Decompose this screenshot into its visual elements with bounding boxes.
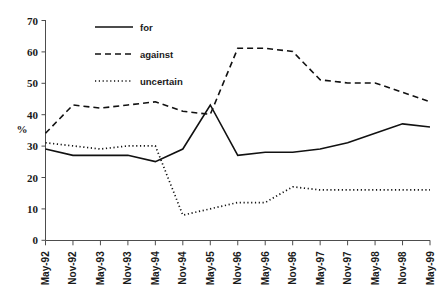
y-tick-label-20: 20: [27, 172, 39, 184]
x-tick-label: May-96: [260, 251, 271, 285]
y-tick-label-0: 0: [33, 234, 39, 246]
y-tick-label-70: 70: [27, 15, 39, 27]
y-axis-title: %: [17, 123, 28, 135]
x-tick-label: May-93: [95, 251, 106, 285]
chart-container: 70 60 50 40 30 20 10 0 % May-92Nov-92May…: [0, 0, 442, 307]
x-tick-label: May-95: [205, 251, 216, 285]
x-tick-label: Nov-97: [342, 251, 353, 285]
y-tick-label-40: 40: [27, 109, 39, 121]
x-tick-label: Nov-98: [397, 251, 408, 285]
x-tick-label: May-98: [370, 251, 381, 285]
x-tick-label: Nov-94: [177, 251, 188, 285]
x-axis-labels: May-92Nov-92May-93Nov-93May-94Nov-94May-…: [40, 251, 436, 285]
x-tick-label: May-99: [425, 251, 436, 285]
line-chart: 70 60 50 40 30 20 10 0 % May-92Nov-92May…: [0, 0, 442, 307]
x-tick-label: May-97: [315, 251, 326, 285]
x-tick-label: Nov-92: [67, 251, 78, 285]
y-tick-label-60: 60: [27, 46, 39, 58]
y-tick-label-30: 30: [27, 140, 39, 152]
x-tick-label: May-92: [40, 251, 51, 285]
legend-label-uncertain: uncertain: [140, 76, 183, 87]
x-tick-label: May-94: [150, 251, 161, 285]
legend-label-for: for: [140, 22, 153, 33]
x-tick-label: Nov-96: [287, 251, 298, 285]
x-tick-label: Nov-93: [122, 251, 133, 285]
y-tick-label-50: 50: [27, 77, 39, 89]
y-tick-label-10: 10: [27, 203, 39, 215]
x-tick-label: Nov-96: [232, 251, 243, 285]
legend-label-against: against: [140, 49, 174, 60]
